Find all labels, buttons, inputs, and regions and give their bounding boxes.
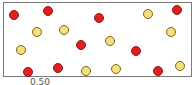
red-circle-icon [94,13,104,23]
red-circle-icon [172,5,182,15]
yellow-circle-icon [143,9,153,19]
red-circle-icon [131,46,141,56]
red-circle-icon [23,67,33,77]
yellow-circle-icon [105,36,115,46]
yellow-circle-icon [111,64,121,74]
yellow-circle-icon [32,27,42,37]
yellow-circle-icon [166,27,176,37]
red-circle-icon [43,6,53,16]
yellow-circle-icon [59,25,69,35]
proportion-caption: 0.50 [30,78,50,85]
yellow-circle-icon [81,66,91,76]
red-circle-icon [153,66,163,76]
red-circle-icon [9,10,19,20]
yellow-circle-icon [175,61,185,71]
yellow-circle-icon [16,45,26,55]
red-circle-icon [53,63,63,73]
red-circle-icon [76,40,86,50]
